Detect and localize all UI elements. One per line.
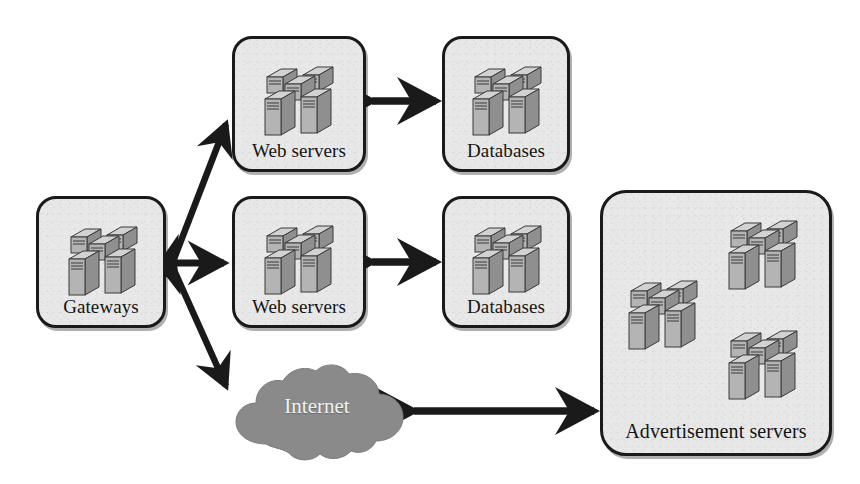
node-databases-top-label: Databases	[445, 140, 567, 162]
internet-cloud-label: Internet	[222, 394, 412, 419]
node-web-servers-middle-label: Web servers	[235, 296, 363, 318]
server-cluster-icon	[65, 213, 145, 297]
server-cluster-icon	[261, 53, 341, 137]
node-databases-middle-label: Databases	[445, 296, 567, 318]
node-databases-middle[interactable]: Databases	[442, 196, 570, 328]
server-cluster-icon	[261, 212, 341, 296]
server-cluster-icon	[725, 207, 805, 291]
server-cluster-icon	[625, 267, 705, 351]
node-advertisement-servers[interactable]: Advertisement servers	[600, 190, 832, 456]
node-web-servers-middle[interactable]: Web servers	[232, 196, 366, 328]
node-advertisement-servers-label: Advertisement servers	[603, 420, 829, 443]
edge-gateways-to-web-servers-top	[174, 124, 226, 259]
server-cluster-icon	[469, 212, 549, 296]
server-cluster-icon	[725, 317, 805, 401]
node-web-servers-top[interactable]: Web servers	[232, 36, 366, 172]
server-cluster-icon	[469, 53, 549, 137]
network-diagram-canvas: Internet	[0, 0, 860, 484]
node-gateways-label: Gateways	[39, 296, 163, 318]
node-gateways[interactable]: Gateways	[36, 196, 166, 328]
edge-gateways-to-internet	[174, 270, 226, 386]
node-databases-top[interactable]: Databases	[442, 36, 570, 172]
node-web-servers-top-label: Web servers	[235, 140, 363, 162]
